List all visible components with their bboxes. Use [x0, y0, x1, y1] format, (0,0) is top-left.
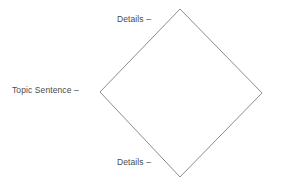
label-topic-sentence: Topic Sentence –: [12, 85, 79, 95]
label-details-bottom: Details –: [117, 157, 151, 167]
diagram-canvas: Details – Topic Sentence – Details –: [0, 0, 286, 183]
label-details-top: Details –: [117, 14, 151, 24]
diamond-outline: [100, 9, 262, 177]
